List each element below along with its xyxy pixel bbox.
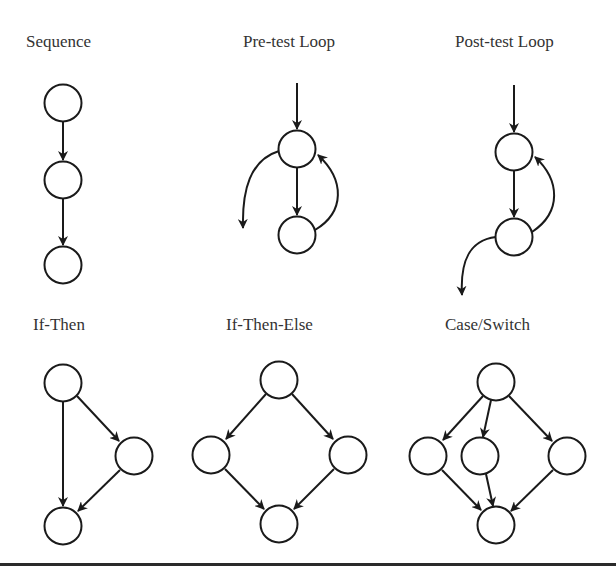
title-case-switch: Case/Switch <box>445 315 530 334</box>
edge-arrow <box>486 474 493 506</box>
node-circle <box>549 438 586 475</box>
diagram-sequence <box>45 85 82 284</box>
loop-back-arrow <box>532 157 554 232</box>
diagram-if-then <box>45 365 153 545</box>
node-circle <box>45 508 82 545</box>
loop-back-arrow <box>315 155 338 230</box>
edge-arrow <box>511 470 553 511</box>
node-circle <box>45 365 82 402</box>
bottom-rule <box>0 563 616 566</box>
node-circle <box>496 219 533 256</box>
exit-arrow <box>462 237 496 295</box>
diagram-posttest-loop <box>462 85 554 295</box>
edge-arrow <box>509 396 552 441</box>
edge-arrow <box>78 470 120 511</box>
node-circle <box>279 217 316 254</box>
edge-arrow <box>294 469 334 509</box>
node-circle <box>116 438 153 475</box>
title-posttest-loop: Post-test Loop <box>455 32 554 51</box>
edge-arrow <box>225 469 264 509</box>
edge-arrow <box>442 470 481 510</box>
node-circle <box>45 85 82 122</box>
diagram-if-then-else <box>193 362 367 543</box>
node-circle <box>261 362 298 399</box>
node-circle <box>478 364 515 401</box>
node-circle <box>193 437 230 474</box>
edge-arrow <box>77 396 119 441</box>
node-circle <box>478 507 515 544</box>
title-pretest-loop: Pre-test Loop <box>243 32 335 51</box>
edge-arrow <box>483 400 491 437</box>
edge-arrow <box>226 394 266 439</box>
node-circle <box>279 131 316 168</box>
node-circle <box>330 437 367 474</box>
node-circle <box>410 438 447 475</box>
control-flow-diagrams: Sequence Pre-test Loop Post-test Loop If… <box>0 0 616 574</box>
title-if-then: If-Then <box>33 315 85 334</box>
title-sequence: Sequence <box>26 32 91 51</box>
title-if-then-else: If-Then-Else <box>226 315 313 334</box>
exit-arrow <box>243 151 279 228</box>
node-circle <box>496 134 533 171</box>
node-circle <box>462 438 499 475</box>
edge-arrow <box>443 396 483 440</box>
node-circle <box>45 162 82 199</box>
node-circle <box>45 247 82 284</box>
edge-arrow <box>292 394 333 439</box>
diagram-case-switch <box>410 364 586 544</box>
node-circle <box>261 506 298 543</box>
diagram-pretest-loop <box>243 83 338 254</box>
